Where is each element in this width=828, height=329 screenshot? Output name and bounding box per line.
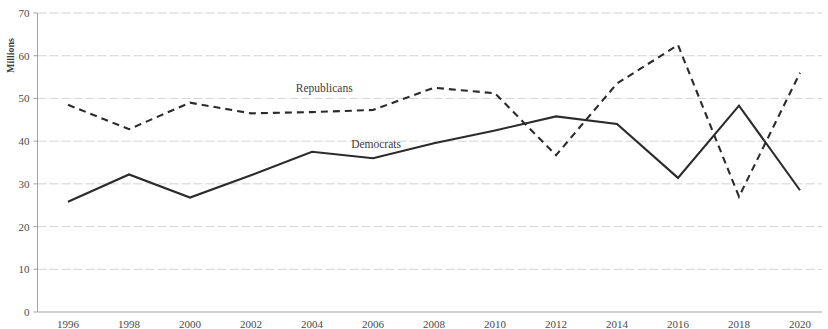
x-axis-tick-labels: 1996199820002002200420062008201020122014… — [57, 318, 812, 329]
series-line-democrats — [68, 106, 800, 202]
x-axis-tick-label: 2016 — [667, 318, 690, 329]
x-axis-tick-label: 2018 — [728, 318, 751, 329]
line-chart: 010203040506070 199619982000200220042006… — [0, 0, 828, 329]
y-axis-tick-label: 40 — [19, 135, 31, 147]
x-axis-tick-label: 2008 — [423, 318, 446, 329]
chart-canvas: 010203040506070 199619982000200220042006… — [0, 0, 828, 329]
y-axis-tick-label: 70 — [19, 7, 31, 19]
gridlines — [38, 13, 823, 269]
x-axis-tick-label: 2020 — [789, 318, 812, 329]
x-axis-tick-label: 1996 — [57, 318, 80, 329]
y-axis-tick-label: 10 — [19, 263, 31, 275]
y-axis-ticks — [34, 13, 38, 312]
x-axis-tick-label: 2012 — [545, 318, 567, 329]
x-axis-tick-label: 2002 — [240, 318, 262, 329]
y-axis-tick-label: 30 — [19, 178, 31, 190]
y-axis-tick-label: 20 — [19, 221, 31, 233]
y-axis-tick-label: 60 — [19, 50, 31, 62]
y-axis-tick-labels: 010203040506070 — [19, 7, 31, 318]
x-axis-tick-label: 2014 — [606, 318, 629, 329]
series-line-republicans — [68, 45, 800, 197]
y-axis-title: Millions — [5, 38, 16, 73]
x-axis-tick-label: 2006 — [362, 318, 385, 329]
y-axis-tick-label: 0 — [24, 306, 30, 318]
series-annotation-democrats: Democrats — [351, 138, 401, 150]
x-axis-tick-label: 2000 — [179, 318, 202, 329]
x-axis-tick-label: 2010 — [484, 318, 507, 329]
x-axis-tick-label: 1998 — [118, 318, 141, 329]
series-annotation-republicans: Republicans — [296, 82, 353, 95]
y-axis-tick-label: 50 — [19, 92, 31, 104]
x-axis-tick-label: 2004 — [301, 318, 324, 329]
